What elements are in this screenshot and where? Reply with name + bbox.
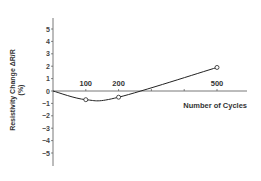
y-tick-label: 2	[46, 63, 50, 70]
data-point-marker	[215, 65, 219, 69]
data-point-marker	[84, 98, 88, 102]
line-chart: 543210−1−2−3−4−5100200500 Number of Cycl…	[0, 0, 261, 181]
y-tick-label: −4	[42, 137, 50, 144]
y-tick-label: −1	[42, 100, 50, 107]
x-axis-label: Number of Cycles	[183, 101, 247, 110]
y-axis-label-unit: (%)	[17, 35, 25, 145]
axes	[53, 18, 247, 166]
y-tick-label: −5	[42, 150, 50, 157]
y-tick-label: −3	[42, 125, 50, 132]
y-axis-label-text: Resistivity Change ΔR/R	[9, 35, 17, 145]
series-line	[53, 67, 217, 100]
y-tick-label: −2	[42, 112, 50, 119]
y-tick-label: 5	[46, 26, 50, 33]
data-point-marker	[117, 95, 121, 99]
x-tick-label: 500	[211, 79, 224, 88]
x-tick-label: 100	[80, 79, 93, 88]
y-tick-label: 0	[46, 88, 50, 95]
y-tick-label: 4	[46, 38, 50, 45]
y-tick-label: 3	[46, 50, 50, 57]
x-tick-label: 200	[112, 79, 125, 88]
y-axis-label: Resistivity Change ΔR/R (%)	[9, 35, 25, 145]
y-tick-label: 1	[46, 75, 50, 82]
data-series	[53, 65, 219, 101]
